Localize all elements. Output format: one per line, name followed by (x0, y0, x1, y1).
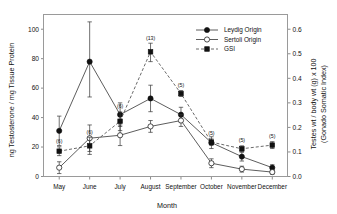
y-left-tick-label: 100 (28, 26, 39, 33)
y-right-tick-label: 0.3 (293, 99, 302, 106)
data-point-marker (118, 119, 123, 124)
x-tick-label-june: June (83, 183, 97, 190)
data-point-marker (57, 149, 62, 154)
sample-size-annotation: (5) (239, 137, 246, 143)
chart-canvas: ng Testosterone / mg Tissue Protein Test… (0, 0, 337, 214)
data-point-marker (239, 154, 244, 159)
y-left-tick-label: 80 (32, 55, 40, 62)
y-right-tick-label: 0.2 (293, 124, 302, 131)
data-point-marker (178, 118, 183, 123)
data-point-marker (209, 161, 214, 166)
x-tick-label-november: November (227, 183, 257, 190)
data-point-marker (239, 167, 244, 172)
y-right-tick-label: 0.5 (293, 50, 302, 57)
sample-size-annotation: (5) (269, 133, 276, 139)
data-point-marker (148, 124, 153, 129)
x-tick-label-october: October (200, 183, 224, 190)
data-point-marker (148, 50, 153, 55)
data-point-marker (87, 144, 92, 149)
data-point-marker (209, 140, 214, 145)
x-tick-label-july: July (114, 183, 126, 191)
legend-marker-filled-square (205, 47, 210, 52)
data-point-marker (179, 91, 184, 96)
x-axis-title: Month (157, 201, 177, 210)
legend-marker-filled-circle (204, 27, 209, 32)
y-left-tick-label: 0 (35, 173, 39, 180)
sample-size-annotation: (6) (86, 129, 93, 135)
y-right-tick-label: 0.1 (293, 148, 302, 155)
figure-container: ng Testosterone / mg Tissue Protein Test… (0, 0, 337, 214)
y-right-tick-label: 0.6 (293, 26, 302, 33)
data-point-marker (270, 169, 275, 174)
data-point-marker (148, 96, 153, 101)
legend-label-gsi: GSI (224, 45, 235, 52)
legend-label-sertoli-origin: Sertoli Origin (224, 36, 261, 44)
x-tick-label-may: May (53, 183, 66, 191)
y-axis-left-title: ng Testosterone / mg Tissue Protein (7, 43, 16, 158)
y-axis-right-title-line1: Testes wt / body wt (g) x 100 (309, 58, 318, 149)
sample-size-annotation: (5) (178, 82, 185, 88)
y-axis-right-title-line2: (Gonado Somatic Index) (319, 65, 328, 143)
data-point-marker (270, 143, 275, 148)
y-left-tick-label: 60 (32, 84, 40, 91)
sample-size-annotation: (6) (117, 103, 124, 109)
data-point-marker (240, 146, 245, 151)
legend-label-leydig-origin: Leydig Origin (224, 26, 262, 34)
legend-marker-open-circle (204, 37, 209, 42)
y-right-tick-label: 0.4 (293, 75, 302, 82)
data-point-marker (87, 59, 92, 64)
x-tick-label-august: August (141, 183, 161, 191)
y-left-tick-label: 20 (32, 143, 40, 150)
sample-size-annotation: (13) (146, 35, 155, 41)
sample-size-annotation: (6) (56, 138, 63, 144)
data-point-marker (117, 133, 122, 138)
sample-size-annotation: (5) (208, 130, 215, 136)
y-right-tick-label: 0.0 (293, 173, 302, 180)
y-left-tick-label: 40 (32, 114, 40, 121)
data-point-marker (57, 165, 62, 170)
x-tick-label-september: September (165, 183, 197, 191)
x-tick-label-december: December (258, 183, 288, 190)
data-point-marker (57, 128, 62, 133)
